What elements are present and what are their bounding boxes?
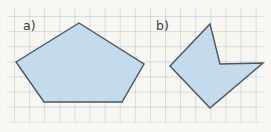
polygon-shape-b bbox=[170, 24, 263, 108]
figures-layer bbox=[0, 0, 271, 132]
figure-page: a) b) bbox=[0, 0, 271, 132]
figure-label-b: b) bbox=[156, 20, 169, 33]
figure-label-a: a) bbox=[23, 20, 36, 33]
polygon-shape-a bbox=[16, 23, 144, 102]
figures-svg bbox=[0, 0, 271, 132]
